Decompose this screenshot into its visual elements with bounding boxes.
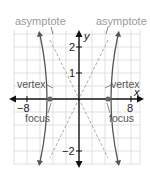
vertex-label-left: vertex — [17, 78, 46, 90]
focus-label-right: focus — [109, 112, 134, 124]
asymptote-label-left: asymptote — [15, 15, 66, 27]
y-axis-label: y — [83, 30, 91, 42]
vertex-label-right: vertex — [111, 78, 140, 90]
y-tick-label-neg2: −2 — [62, 145, 75, 157]
curve-arrow-icon — [115, 160, 121, 166]
focus-point-left — [47, 96, 52, 101]
y-tick-label-1: 1 — [69, 67, 75, 79]
vertex-left-leader — [47, 85, 53, 88]
y-tick-label-2: 2 — [69, 41, 75, 53]
grid — [14, 30, 140, 164]
focus-label-left: focus — [25, 112, 50, 124]
asymptote-right-leader — [106, 27, 108, 34]
x-axis-left-arrow-icon — [9, 96, 16, 103]
asymptote-label-right: asymptote — [96, 15, 147, 27]
y-axis-up-arrow-icon — [76, 30, 83, 37]
focus-point-right — [105, 96, 110, 101]
curve-arrow-icon — [37, 160, 43, 166]
y-axis-down-arrow-icon — [76, 161, 83, 168]
hyperbola-diagram: asymptote asymptote y x 2 1 −2 −8 8 vert… — [0, 0, 150, 172]
axes — [9, 30, 144, 168]
